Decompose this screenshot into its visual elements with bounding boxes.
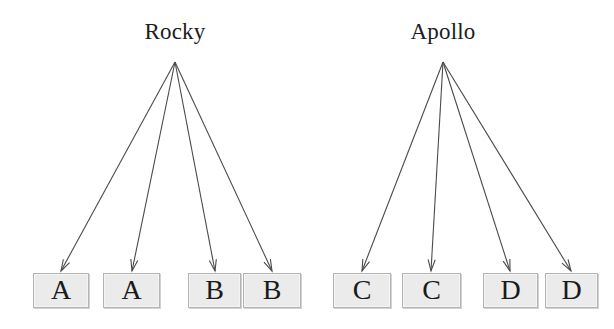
- arrow-shaft: [431, 62, 443, 271]
- child-box-label: D: [561, 276, 581, 304]
- child-box-child-7: D: [483, 273, 538, 308]
- arrow-head: [362, 259, 369, 271]
- arrow-shaft: [362, 62, 443, 271]
- arrow-head: [428, 259, 435, 271]
- arrow-head: [61, 259, 70, 271]
- child-box-label: B: [263, 276, 282, 304]
- arrow-shaft: [61, 62, 175, 271]
- child-box-label: A: [121, 276, 141, 304]
- child-box-child-6: C: [402, 273, 461, 308]
- child-box-label: C: [422, 276, 441, 304]
- child-box-child-5: C: [333, 273, 391, 308]
- arrow-head: [503, 259, 510, 271]
- arrow-edge-apollo-c2: [428, 62, 443, 271]
- child-box-label: D: [500, 276, 520, 304]
- arrow-shaft: [175, 62, 272, 271]
- arrow-edge-rocky-b1: [175, 62, 216, 271]
- arrow-edge-apollo-d2: [443, 62, 571, 271]
- arrow-edge-rocky-a2: [131, 62, 175, 271]
- arrow-edge-rocky-b2: [175, 62, 272, 271]
- parent-label-apollo: Apollo: [353, 18, 533, 46]
- arrow-head: [562, 259, 571, 271]
- child-box-child-2: A: [103, 273, 160, 308]
- arrow-shaft: [175, 62, 215, 271]
- arrow-edge-rocky-a1: [61, 62, 175, 271]
- arrow-shaft: [132, 62, 175, 271]
- diagram-canvas: RockyApollo AABBCCDD: [0, 0, 614, 329]
- child-box-child-8: D: [545, 273, 598, 308]
- child-box-label: B: [205, 276, 224, 304]
- arrow-shaft: [443, 62, 510, 271]
- arrow-head: [131, 259, 138, 271]
- arrow-head: [264, 259, 272, 271]
- child-box-child-1: A: [33, 273, 89, 308]
- child-box-child-4: B: [243, 273, 301, 308]
- arrow-shaft: [443, 62, 571, 271]
- child-box-label: A: [51, 276, 71, 304]
- child-box-child-3: B: [188, 273, 241, 308]
- child-box-label: C: [353, 276, 372, 304]
- arrow-edge-apollo-d1: [443, 62, 510, 271]
- arrow-head: [209, 259, 216, 271]
- parent-label-rocky: Rocky: [85, 18, 265, 46]
- arrow-edge-apollo-c1: [362, 62, 443, 271]
